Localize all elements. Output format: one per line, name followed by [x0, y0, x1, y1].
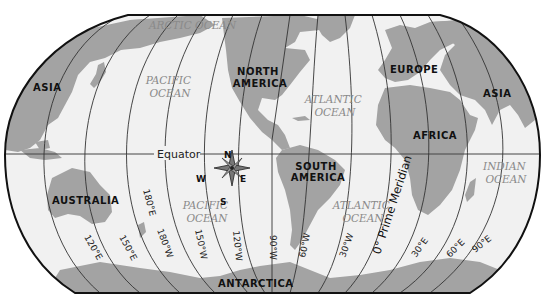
compass-center-icon — [230, 166, 234, 170]
world-map: ASIA NORTH AMERICA EUROPE ASIA AFRICA SO… — [0, 0, 545, 302]
label-europe: EUROPE — [390, 64, 438, 75]
label-australia: AUSTRALIA — [52, 195, 119, 206]
compass-e: E — [240, 174, 246, 184]
label-antarctica: ANTARCTICA — [218, 278, 294, 289]
label-pacific-ocean-north: PACIFIC OCEAN — [145, 74, 195, 99]
label-north-america: NORTH AMERICA — [233, 66, 288, 89]
label-asia-east: ASIA — [483, 88, 511, 99]
compass-s: S — [220, 197, 226, 207]
label-south-america: SOUTH AMERICA — [291, 161, 346, 183]
label-arctic-ocean: ARCTIC OCEAN — [148, 19, 237, 31]
label-asia-west: ASIA — [33, 82, 61, 93]
map-canvas: ASIA NORTH AMERICA EUROPE ASIA AFRICA SO… — [0, 0, 545, 302]
label-equator: Equator — [157, 148, 201, 161]
label-africa: AFRICA — [413, 130, 457, 141]
label-meridian-90w: 90°W — [268, 235, 278, 260]
compass-n: N — [224, 150, 232, 160]
label-indian-ocean: INDIAN OCEAN — [482, 160, 529, 185]
compass-w: W — [196, 174, 206, 184]
